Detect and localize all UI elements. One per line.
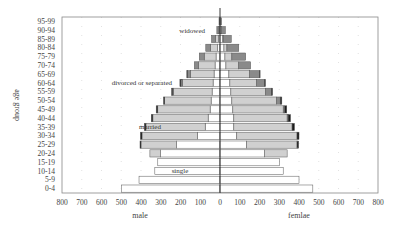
bar-male-widowed-65-69 [187, 71, 190, 78]
bar-female-single-30-34 [220, 132, 237, 139]
bar-male-single-65-69 [214, 71, 220, 78]
bar-male-married-80-84 [211, 44, 218, 51]
bar-male-widowed-90-94 [217, 27, 219, 34]
y-tick-label: 10-14 [38, 167, 56, 176]
bar-male-married-75-79 [204, 53, 216, 60]
bar-female-single-80-84 [220, 44, 224, 51]
bar-female-single-55-59 [220, 88, 231, 95]
bar-female-single-40-44 [220, 115, 234, 122]
x-tick-label: 600 [333, 198, 345, 207]
x-tick-label: 800 [56, 198, 68, 207]
bar-male-single-15-19 [158, 159, 220, 166]
bar-male-single-60-64 [213, 79, 220, 86]
y-tick-label: 65-69 [38, 70, 56, 79]
bar-female-married-40-44 [234, 115, 287, 122]
bar-male-married-55-59 [174, 88, 213, 95]
bar-male-married-60-64 [182, 79, 213, 86]
bar-female-single-70-74 [220, 62, 226, 69]
bar-male-married-20-24 [150, 150, 161, 157]
bar-female-married-70-74 [226, 62, 239, 69]
bar-male-married-85-89 [215, 35, 218, 42]
bar-female-widowed-70-74 [239, 62, 251, 69]
bar-male-single-40-44 [208, 115, 220, 122]
bar-female-divorced-45-49 [285, 106, 287, 113]
bar-female-single-25-29 [220, 141, 247, 148]
x-tick-label: 600 [96, 198, 108, 207]
y-tick-label: 5-9 [45, 175, 55, 184]
x-axis-title-female: femlae [288, 211, 310, 220]
bar-female-divorced-65-69 [260, 71, 261, 78]
bar-female-single-60-64 [220, 79, 230, 86]
bar-female-married-35-39 [234, 123, 292, 130]
bar-male-widowed-75-79 [199, 53, 204, 60]
bar-male-divorced-50-54 [164, 97, 165, 104]
bar-male-married-30-34 [142, 132, 197, 139]
x-tick-label: 200 [254, 198, 266, 207]
x-tick-label: 100 [234, 198, 246, 207]
y-tick-label: 85-89 [38, 35, 56, 44]
bar-male-divorced-65-69 [187, 71, 188, 78]
x-tick-label: 400 [293, 198, 305, 207]
bar-male-married-50-54 [165, 97, 211, 104]
x-tick-label: 0 [218, 198, 222, 207]
bar-female-divorced-40-44 [288, 115, 290, 122]
bar-male-married-45-49 [158, 106, 210, 113]
bar-male-single-45-49 [210, 106, 220, 113]
bar-female-divorced-50-54 [280, 97, 282, 104]
bar-female-married-30-34 [237, 132, 297, 139]
y-tick-label: 35-39 [38, 123, 56, 132]
bar-female-married-80-84 [224, 44, 227, 51]
y-axis-title: age group [13, 89, 22, 121]
y-tick-label: 20-24 [38, 149, 56, 158]
x-tick-label: 800 [372, 198, 384, 207]
annotation-widowed: widowed [179, 27, 205, 35]
bar-female-married-25-29 [247, 141, 297, 148]
bar-female-widowed-95-99 [220, 18, 221, 25]
annotation-divorced: divorced or separated [112, 79, 173, 87]
bar-female-widowed-60-64 [257, 79, 265, 86]
bar-male-single-75-79 [216, 53, 220, 60]
bar-female-single-45-49 [220, 106, 233, 113]
bar-female-widowed-75-79 [232, 53, 246, 60]
x-tick-labels: 8007006005004003002001000100200300400500… [56, 198, 384, 207]
bar-female-single-35-39 [220, 123, 234, 130]
bar-male-widowed-80-84 [206, 44, 211, 51]
x-tick-label: 700 [353, 198, 365, 207]
bar-female-single-15-19 [220, 159, 279, 166]
bar-female-single-10-14 [220, 167, 283, 174]
population-pyramid-chart: 0-45-910-1415-1920-2425-2930-3435-3940-4… [0, 0, 397, 231]
bar-female-divorced-35-39 [292, 123, 294, 130]
y-tick-label: 80-84 [38, 43, 56, 52]
y-tick-label: 40-44 [38, 114, 56, 123]
y-tick-label: 0-4 [45, 184, 55, 193]
bar-male-divorced-40-44 [151, 115, 153, 122]
annotation-married: married [139, 123, 161, 131]
y-tick-label: 95-99 [38, 17, 56, 26]
bar-female-divorced-60-64 [264, 79, 265, 86]
y-tick-labels: 0-45-910-1415-1920-2425-2930-3435-3940-4… [38, 17, 56, 193]
bar-male-divorced-60-64 [180, 79, 181, 86]
y-tick-label: 75-79 [38, 52, 56, 61]
bar-female-single-75-79 [220, 53, 225, 60]
y-tick-label: 60-64 [38, 79, 56, 88]
bar-female-single-65-69 [220, 71, 229, 78]
bar-male-divorced-30-34 [140, 132, 142, 139]
bar-male-single-30-34 [197, 132, 220, 139]
x-tick-label: 100 [195, 198, 207, 207]
x-tick-label: 200 [175, 198, 187, 207]
bar-female-divorced-30-34 [297, 132, 299, 139]
y-tick-label: 55-59 [38, 87, 56, 96]
bar-female-married-65-69 [229, 71, 250, 78]
bar-male-single-35-39 [205, 123, 220, 130]
bar-male-married-65-69 [190, 71, 214, 78]
bar-female-divorced-25-29 [297, 141, 299, 148]
bar-female-divorced-55-59 [271, 88, 272, 95]
x-tick-label: 500 [116, 198, 128, 207]
y-tick-label: 15-19 [38, 158, 56, 167]
bar-male-divorced-55-59 [172, 88, 173, 95]
x-tick-label: 700 [76, 198, 88, 207]
y-tick-label: 70-74 [38, 61, 56, 70]
bar-female-married-20-24 [264, 150, 287, 157]
bar-female-widowed-85-89 [223, 35, 231, 42]
bar-male-single-20-24 [161, 150, 220, 157]
